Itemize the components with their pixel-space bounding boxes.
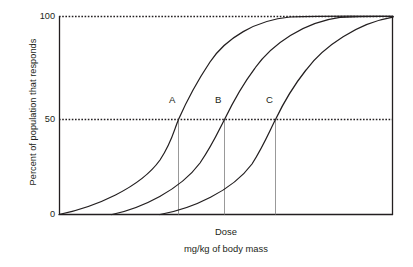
- x-axis-subtitle: mg/kg of body mass: [59, 243, 393, 254]
- x-axis-title: Dose: [59, 226, 393, 237]
- curve-label-c: C: [266, 94, 273, 105]
- curve-label-b: B: [215, 94, 221, 105]
- curve-b: [112, 16, 393, 214]
- curve-c: [160, 17, 393, 214]
- curve-label-a: A: [169, 94, 176, 105]
- dose-response-chart: Percent of population that responds 100 …: [0, 0, 413, 267]
